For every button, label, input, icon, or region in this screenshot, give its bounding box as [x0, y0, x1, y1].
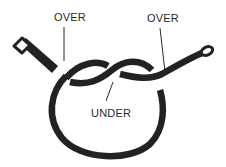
knot-diagram: OVER OVER UNDER: [0, 0, 226, 167]
rope-illustration: [0, 0, 226, 167]
rope-right-end: [200, 45, 214, 57]
leader-line-over-right: [160, 28, 165, 72]
label-over-right: OVER: [147, 13, 179, 24]
label-under: UNDER: [91, 108, 131, 119]
leader-line-under: [106, 82, 113, 101]
rope-left-end: [14, 38, 58, 73]
label-over-left: OVER: [54, 12, 86, 23]
